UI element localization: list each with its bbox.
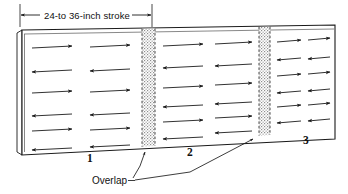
section-number-2: 2 (187, 146, 193, 158)
figure-canvas: 24-to 36-inch stroke (0, 0, 348, 194)
overlap-band-2-fill (259, 27, 270, 136)
panel-front-face (22, 25, 335, 155)
dimension-group: 24-to 36-inch stroke (20, 4, 152, 27)
overlap-label: Overlap (92, 175, 127, 186)
overlap-band-1-fill (142, 29, 155, 147)
section-number-1: 1 (87, 152, 93, 164)
overlap-band-2 (259, 27, 270, 136)
panel-left-edge-face (17, 30, 22, 155)
overlap-band-1 (142, 29, 155, 147)
panel-group (17, 25, 335, 155)
dimension-label: 24-to 36-inch stroke (44, 10, 130, 21)
spray-overlap-figure: 24-to 36-inch stroke (0, 0, 348, 194)
overlap-leader-line-1 (133, 152, 145, 178)
section-number-3: 3 (303, 134, 309, 146)
